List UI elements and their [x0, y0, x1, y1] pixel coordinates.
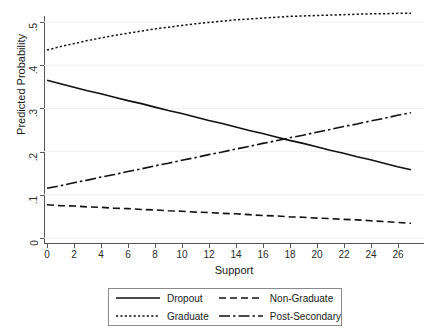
y-tick-label: 0 — [0, 232, 38, 244]
x-tick-label: 6 — [116, 249, 140, 261]
x-tick-mark — [344, 244, 345, 248]
x-tick-mark — [371, 244, 372, 248]
plot-area — [44, 16, 424, 243]
y-tick-label-text: 0 — [29, 240, 41, 246]
x-tick-label: 18 — [278, 249, 302, 261]
cut-off-title — [0, 0, 432, 4]
x-tick-label: 24 — [359, 249, 383, 261]
legend-item-post-secondary[interactable]: Post-Secondary — [212, 308, 341, 325]
x-tick-mark — [155, 244, 156, 248]
series-canvas — [44, 16, 424, 243]
x-tick-label: 8 — [143, 249, 167, 261]
x-tick-mark — [236, 244, 237, 248]
legend-item-graduate[interactable]: Graduate — [109, 308, 212, 325]
x-tick-mark — [263, 244, 264, 248]
series-line-post-secondary — [47, 113, 411, 189]
x-tick-mark — [128, 244, 129, 248]
x-tick-mark — [317, 244, 318, 248]
x-tick-label: 16 — [251, 249, 275, 261]
line-key-dashed — [218, 293, 264, 303]
x-tick-mark — [209, 244, 210, 248]
legend-item-dropout[interactable]: Dropout — [109, 290, 212, 307]
y-tick-label-text: .4 — [28, 66, 40, 74]
legend-label: Dropout — [167, 293, 203, 304]
x-tick-mark — [398, 244, 399, 248]
legend-label: Non-Graduate — [270, 293, 333, 304]
y-tick-label-text: .3 — [28, 109, 40, 117]
chart-figure: 0.1.2.3.4.5 02468101214161820222426 Pred… — [0, 0, 432, 332]
series-line-non-graduate — [47, 205, 411, 224]
series-line-graduate — [47, 13, 411, 50]
x-tick-label: 26 — [386, 249, 410, 261]
y-tick-label-text: .5 — [28, 23, 40, 31]
x-tick-label: 12 — [197, 249, 221, 261]
legend-item-non-graduate[interactable]: Non-Graduate — [212, 290, 341, 307]
x-tick-label: 14 — [224, 249, 248, 261]
x-tick-label: 22 — [332, 249, 356, 261]
line-key-solid — [115, 293, 161, 303]
x-axis-title: Support — [44, 263, 424, 277]
x-tick-label: 4 — [89, 249, 113, 261]
y-tick-label-text: .2 — [28, 153, 40, 161]
series-line-dropout — [47, 80, 411, 169]
x-tick-label: 0 — [35, 249, 59, 261]
x-tick-label: 20 — [305, 249, 329, 261]
legend-label: Graduate — [167, 311, 209, 322]
x-tick-mark — [101, 244, 102, 248]
x-tick-mark — [290, 244, 291, 248]
y-tick-label-text: .1 — [28, 196, 40, 204]
y-tick-label: .1 — [0, 189, 38, 201]
line-key-dash-dot — [218, 311, 264, 321]
x-tick-label: 10 — [170, 249, 194, 261]
chart-legend: DropoutNon-GraduateGraduatePost-Secondar… — [108, 288, 342, 326]
legend-label: Post-Secondary — [270, 311, 341, 322]
y-axis-title: Predicted Probability — [15, 10, 28, 160]
line-key-dotted — [115, 311, 161, 321]
x-tick-mark — [74, 244, 75, 248]
x-tick-mark — [182, 244, 183, 248]
x-tick-label: 2 — [62, 249, 86, 261]
x-tick-mark — [47, 244, 48, 248]
